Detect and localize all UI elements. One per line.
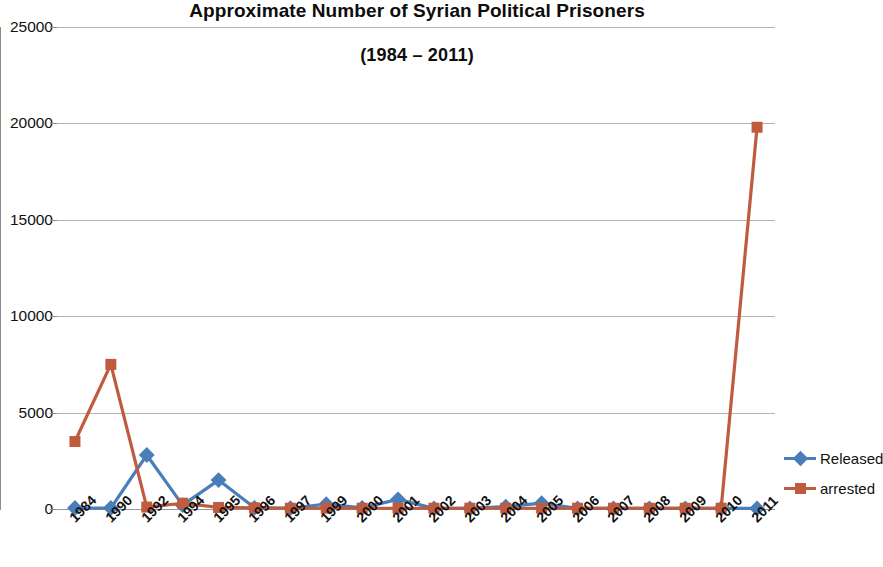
legend-item-arrested[interactable]: arrested [784, 473, 866, 503]
y-tick-label-25000: 25000 [0, 19, 53, 34]
y-tick-label-5000: 5000 [0, 405, 53, 420]
data-point [105, 359, 116, 370]
data-point [69, 436, 80, 447]
y-tick-mark-5000 [50, 413, 57, 414]
y-tick-label-15000: 15000 [0, 212, 53, 227]
y-tick-mark-0 [50, 509, 57, 510]
legend-marker [793, 451, 809, 467]
y-tick-mark-25000 [50, 27, 57, 28]
y-tick-mark-15000 [50, 220, 57, 221]
chart-title: Approximate Number of Syrian Political P… [57, 0, 777, 22]
y-tick-mark-10000 [50, 316, 57, 317]
y-tick-label-0: 0 [0, 501, 53, 516]
y-tick-mark-20000 [50, 123, 57, 124]
legend-marker [795, 483, 806, 494]
series-layer [57, 27, 775, 509]
y-tick-label-10000: 10000 [0, 308, 53, 323]
data-point [752, 122, 763, 133]
y-tick-label-20000: 20000 [0, 115, 53, 130]
plot-area [57, 27, 775, 509]
legend-marker-diamond-icon [784, 451, 816, 465]
legend-marker-square-icon [784, 481, 816, 495]
series-line-arrested [75, 127, 757, 508]
series-arrested [69, 122, 762, 514]
chart-legend: Releasedarrested [784, 443, 866, 503]
y-axis-line [0, 27, 1, 510]
legend-label: arrested [820, 481, 875, 496]
legend-item-released[interactable]: Released [784, 443, 866, 473]
legend-label: Released [820, 451, 883, 466]
